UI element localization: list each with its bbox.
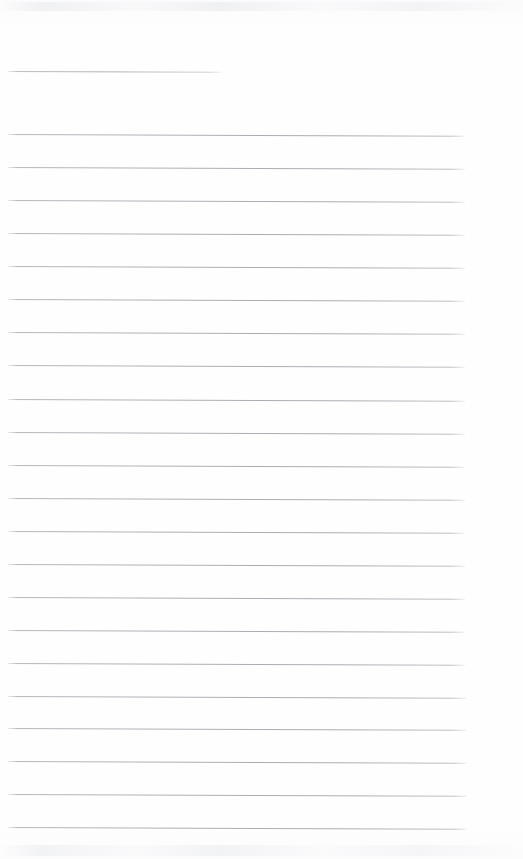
- ruled-line: [8, 399, 465, 402]
- ruled-line: [8, 564, 465, 567]
- ruled-line: [8, 432, 465, 435]
- ruled-line: [8, 233, 465, 236]
- ruled-line: [8, 630, 465, 633]
- ruled-line: [8, 498, 465, 501]
- ruled-line: [8, 365, 465, 368]
- ruled-line: [8, 531, 465, 534]
- ruled-line: [8, 794, 467, 797]
- ruled-line: [8, 663, 465, 666]
- ruled-line: [8, 332, 465, 335]
- ruled-lines-layer: [0, 0, 523, 859]
- scanned-page: [0, 0, 523, 859]
- ruled-line: [8, 167, 465, 170]
- ruled-line: [8, 134, 465, 137]
- ruled-line: [8, 827, 467, 830]
- ruled-line: [8, 266, 465, 269]
- ruled-line: [8, 200, 465, 203]
- ruled-line: [8, 465, 465, 468]
- ruled-line: [8, 761, 467, 764]
- ruled-line: [8, 71, 222, 73]
- ruled-line: [8, 299, 465, 302]
- ruled-line: [8, 597, 465, 600]
- ruled-line: [8, 728, 466, 731]
- ruled-line: [8, 696, 466, 699]
